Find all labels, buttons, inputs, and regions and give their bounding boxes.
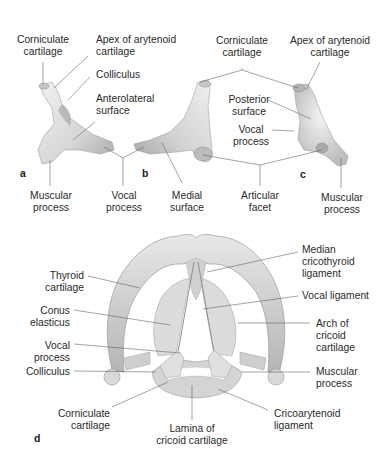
label-a-muscular-process: Muscular process bbox=[26, 190, 76, 214]
label-d-cricoarytenoid-ligament: Cricoarytenoid ligament bbox=[274, 408, 340, 432]
label-d-vocal-ligament: Vocal ligament bbox=[302, 290, 369, 302]
label-d-median-cricothyroid-ligament: Median cricothyroid ligament bbox=[302, 244, 355, 280]
label-d-corniculate-cartilage: Corniculate cartilage bbox=[50, 408, 110, 432]
panel-letter-b: b bbox=[142, 167, 148, 179]
label-d-arch-of-cricoid: Arch of cricoid cartilage bbox=[316, 318, 355, 354]
panel-letter-c: c bbox=[300, 168, 306, 180]
label-bc-corniculate-cartilage: Corniculate cartilage bbox=[212, 35, 272, 59]
label-c-posterior-surface: Posterior surface bbox=[226, 94, 272, 118]
label-bc-articular-facet: Articular facet bbox=[234, 190, 286, 214]
panel-letter-a: a bbox=[20, 167, 26, 179]
label-a-apex-of-arytenoid: Apex of arytenoid cartilage bbox=[96, 34, 176, 58]
arytenoid-c bbox=[293, 84, 348, 166]
panel-letter-d: d bbox=[34, 432, 40, 444]
larynx-figure: a b c d Corniculate cartilage Apex of ar… bbox=[0, 0, 386, 458]
label-d-vocal-process: Vocal process bbox=[22, 340, 70, 364]
label-b-medial-surface: Medial surface bbox=[164, 190, 210, 214]
label-d-conus-elasticus: Conus elasticus bbox=[22, 305, 70, 329]
label-d-thyroid-cartilage: Thyroid cartilage bbox=[30, 270, 84, 294]
label-d-colliculus: Colliculus bbox=[10, 366, 70, 378]
label-d-lamina-of-cricoid: Lamina of cricoid cartilage bbox=[154, 423, 230, 447]
label-c-vocal-process: Vocal process bbox=[230, 124, 272, 148]
label-ab-vocal-process: Vocal process bbox=[100, 190, 148, 214]
label-a-anterolateral-surface: Anterolateral surface bbox=[96, 93, 154, 117]
label-a-colliculus: Colliculus bbox=[96, 69, 140, 81]
label-d-muscular-process: Muscular process bbox=[316, 366, 358, 390]
label-a-corniculate-cartilage: Corniculate cartilage bbox=[16, 34, 70, 58]
label-c-apex-of-arytenoid: Apex of arytenoid cartilage bbox=[288, 35, 372, 59]
label-c-muscular-process: Muscular process bbox=[316, 192, 368, 216]
